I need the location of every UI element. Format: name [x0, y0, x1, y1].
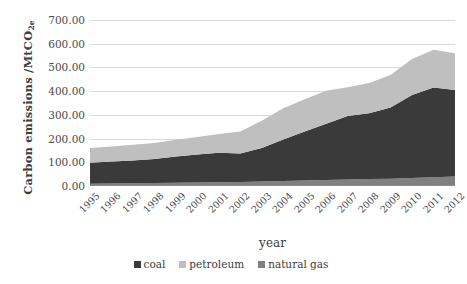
y-axis-tick-label: 300.00: [3, 109, 85, 121]
x-axis-tick-labels: 1995199619971998199920002001200220032004…: [90, 188, 455, 236]
y-axis-tick-label: 200.00: [3, 133, 85, 145]
legend-swatch-icon: [134, 261, 141, 268]
y-axis-tick-label: 400.00: [3, 85, 85, 97]
legend-item-coal[interactable]: coal: [134, 258, 166, 270]
y-axis-tick-label: 500.00: [3, 61, 85, 73]
y-axis-tick-label: 100.00: [3, 156, 85, 168]
legend-label: natural gas: [268, 258, 328, 270]
x-axis-title: year: [90, 236, 455, 250]
legend-label: coal: [144, 258, 166, 270]
plot-area: [90, 20, 455, 186]
legend-item-natural-gas[interactable]: natural gas: [258, 258, 328, 270]
y-axis-tick-label: 700.00: [3, 14, 85, 26]
y-axis-tick-labels: 700.00600.00500.00400.00300.00200.00100.…: [0, 20, 85, 186]
stacked-area-series: [90, 20, 455, 186]
legend-swatch-icon: [258, 261, 265, 268]
legend-label: petroleum: [189, 258, 244, 270]
legend-swatch-icon: [179, 261, 186, 268]
y-axis-tick-label: 0.00: [3, 180, 85, 192]
chart-legend: coalpetroleumnatural gas: [0, 258, 462, 270]
y-axis-tick-label: 600.00: [3, 38, 85, 50]
legend-item-petroleum[interactable]: petroleum: [179, 258, 244, 270]
axis-baseline: [90, 185, 455, 186]
